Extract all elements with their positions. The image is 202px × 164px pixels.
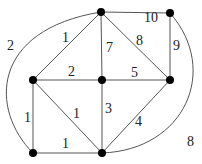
node-b: [166, 9, 174, 17]
weight-c-f: 1: [24, 110, 31, 125]
weight-a-e: 8: [136, 33, 143, 48]
weight-b-e: 9: [173, 38, 180, 53]
graph-diagram: 2 1 10 7 8 9 2 5 1 1 1 3 4 8: [0, 0, 202, 164]
weight-c-d: 2: [68, 64, 75, 79]
edge-a-d: [101, 12, 102, 80]
weight-f-g: 1: [62, 136, 69, 151]
edge-a-b: [101, 12, 170, 13]
edge-g-b-arc: [102, 13, 193, 153]
node-d: [98, 76, 106, 84]
weight-a-d: 7: [106, 40, 113, 55]
weight-c-a: 1: [62, 30, 69, 45]
weight-c-g: 1: [73, 106, 80, 121]
node-e: [166, 76, 174, 84]
node-g: [98, 149, 106, 157]
weight-d-e: 5: [131, 65, 138, 80]
weight-a-b: 10: [144, 10, 158, 25]
weight-f-a: 2: [7, 38, 14, 53]
edge-f-a-arc: [6, 12, 101, 153]
weight-g-e: 4: [135, 114, 142, 129]
node-c: [29, 76, 37, 84]
node-a: [97, 8, 105, 16]
edge-c-a: [33, 12, 101, 80]
weight-g-b: 8: [187, 134, 194, 149]
node-f: [29, 149, 37, 157]
weight-d-g: 3: [105, 101, 112, 116]
